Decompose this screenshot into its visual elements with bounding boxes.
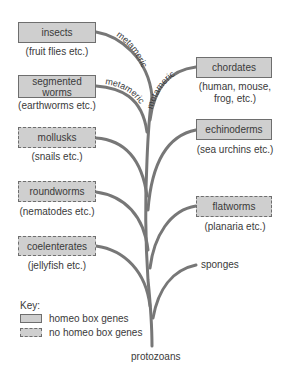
sponges-label: sponges <box>201 259 239 270</box>
segmented-worms-box: segmented worms <box>18 75 96 98</box>
roundworms-branch <box>96 192 148 250</box>
coelenterates-branch <box>96 246 150 306</box>
echinoderms-box: echinoderms <box>196 119 272 140</box>
key-row-homeo-box: homeo box genes <box>20 313 129 324</box>
solid-box-swatch-icon <box>20 314 42 323</box>
chordates-caption-line2: frog, etc.) <box>192 93 278 105</box>
coelenterates-label: coelenterates <box>27 241 87 252</box>
mollusks-label: mollusks <box>38 132 77 143</box>
key-title: Key: <box>20 300 40 311</box>
coelenterates-caption: (jellyfish etc.) <box>10 260 104 272</box>
metameric-label-insects: metameric <box>115 29 150 69</box>
echinoderms-caption: (sea urchins etc.) <box>190 144 280 156</box>
mollusks-box: mollusks <box>18 127 96 148</box>
key-label-no-homeo-box: no homeo box genes <box>49 327 142 338</box>
protozoans-label: protozoans <box>131 351 180 362</box>
echinoderms-branch <box>148 130 196 210</box>
chordates-box: chordates <box>196 57 272 78</box>
echinoderms-label: echinoderms <box>205 124 262 135</box>
roundworms-box: roundworms <box>18 181 96 202</box>
flatworms-label: flatworms <box>213 201 256 212</box>
mollusks-caption: (snails etc.) <box>10 151 104 163</box>
trunk-branch <box>146 96 152 346</box>
mollusks-branch <box>96 138 147 196</box>
segmented-worms-label: segmented worms <box>27 76 87 98</box>
roundworms-label: roundworms <box>29 186 84 197</box>
flatworms-caption: (planaria etc.) <box>192 221 278 233</box>
chordates-caption-line1: (human, mouse, <box>192 81 278 93</box>
key-row-no-homeo-box: no homeo box genes <box>20 327 142 338</box>
sponges-branch <box>153 265 196 318</box>
segmented-worms-caption: (earthworms etc.) <box>6 100 108 112</box>
chordates-label: chordates <box>212 62 256 73</box>
insects-label: insects <box>41 27 72 38</box>
insects-caption: (fruit flies etc.) <box>10 46 104 58</box>
flatworms-box: flatworms <box>196 196 272 217</box>
key-label-homeo-box: homeo box genes <box>49 313 129 324</box>
metameric-label-segmented-worms: metameric <box>105 76 147 106</box>
coelenterates-box: coelenterates <box>18 236 96 256</box>
roundworms-caption: (nematodes etc.) <box>6 206 108 218</box>
insects-box: insects <box>18 22 96 43</box>
dashed-box-swatch-icon <box>20 328 42 337</box>
flatworms-branch <box>150 206 196 268</box>
